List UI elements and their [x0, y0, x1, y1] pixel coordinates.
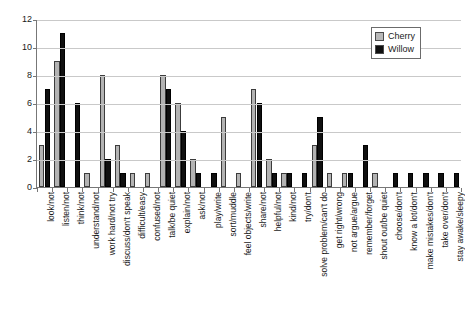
- bar-willow: [75, 103, 80, 187]
- x-tick-label: ask/not: [198, 192, 207, 219]
- bar-cherry: [130, 173, 135, 187]
- x-tick-label-text: think/not: [77, 192, 86, 224]
- gridline: [37, 132, 461, 133]
- x-tick-label-text: choose/don't: [395, 192, 404, 240]
- x-tick-label-text: shout out/be quiet: [380, 192, 389, 260]
- x-tick-label-text: ask/not: [198, 192, 207, 219]
- bar-cherry: [266, 159, 271, 187]
- x-tick-label-text: sort/muddle: [229, 192, 238, 236]
- x-tick-label: work hard/not try: [108, 192, 117, 255]
- x-tick-label: listen/not: [62, 192, 71, 226]
- bar-willow: [454, 173, 459, 187]
- x-tick-label-text: explain/not: [183, 192, 192, 233]
- x-tick-label-text: discuss/don't speak: [123, 192, 132, 266]
- x-tick-label-text: know a lot/don't: [410, 192, 419, 251]
- bar-group: [446, 19, 461, 187]
- bar-willow: [363, 145, 368, 187]
- bar-willow: [120, 173, 125, 187]
- bar-group: [310, 19, 325, 187]
- x-tick-label: make mistakes/don't: [426, 192, 435, 269]
- legend-label-cherry: Cherry: [388, 32, 415, 41]
- x-tick-label: shout out/be quiet: [380, 192, 389, 260]
- bar-willow: [287, 173, 292, 187]
- bar-willow: [257, 103, 262, 187]
- x-tick-label: remember/forget: [365, 192, 374, 255]
- bar-group: [128, 19, 143, 187]
- x-tick-label: not argue/argue: [350, 192, 359, 252]
- bar-group: [325, 19, 340, 187]
- bar-cherry: [312, 145, 317, 187]
- bar-group: [204, 19, 219, 187]
- gridline: [37, 20, 461, 21]
- x-tick-label-text: take over/don't: [441, 192, 450, 248]
- bar-group: [219, 19, 234, 187]
- bar-cherry: [372, 173, 377, 187]
- x-tick-label: helpful/not: [274, 192, 283, 231]
- x-tick-label-text: not argue/argue: [350, 192, 359, 252]
- y-tick-label: 6: [2, 99, 32, 108]
- y-tick-mark: [33, 160, 37, 161]
- x-tick-label: stay awake/sleepy: [456, 192, 465, 261]
- bar-cherry: [190, 159, 195, 187]
- x-tick-label-text: make mistakes/don't: [426, 192, 435, 269]
- y-tick-label: 8: [2, 71, 32, 80]
- x-tick-label-text: try/don't: [304, 192, 313, 222]
- x-tick-label: play/write: [214, 192, 223, 228]
- bar-cherry: [54, 61, 59, 187]
- x-tick-label-text: talk/be quiet: [168, 192, 177, 238]
- x-tick-label: solve problem/can't do: [320, 192, 329, 277]
- y-axis-labels: 024681012: [0, 20, 32, 188]
- y-tick-label: 12: [2, 15, 32, 24]
- legend-item-cherry: Cherry: [375, 30, 415, 43]
- bar-group: [279, 19, 294, 187]
- gridline: [37, 104, 461, 105]
- bar-group: [52, 19, 67, 187]
- bar-willow: [438, 173, 443, 187]
- x-tick-label-text: difficult/easy: [138, 192, 147, 239]
- bar-group: [264, 19, 279, 187]
- bar-group: [173, 19, 188, 187]
- y-tick-mark: [33, 132, 37, 133]
- bar-cherry: [84, 173, 89, 187]
- bar-group: [37, 19, 52, 187]
- x-tick-label-text: remember/forget: [365, 192, 374, 255]
- bar-group: [82, 19, 97, 187]
- x-tick-label: explain/not: [183, 192, 192, 233]
- bar-group: [188, 19, 203, 187]
- x-axis-labels: look/notlisten/notthink/notunderstand/no…: [36, 192, 460, 328]
- x-tick-label: difficult/easy: [138, 192, 147, 239]
- bar-cherry: [221, 117, 226, 187]
- y-tick-label: 10: [2, 43, 32, 52]
- bar-willow: [105, 159, 110, 187]
- x-tick-label-text: work hard/not try: [108, 192, 117, 255]
- gridline: [37, 160, 461, 161]
- x-tick-label: take over/don't: [441, 192, 450, 248]
- legend-item-willow: Willow: [375, 43, 415, 56]
- y-tick-mark: [33, 20, 37, 21]
- bar-cherry: [115, 145, 120, 187]
- bar-willow: [408, 173, 413, 187]
- bar-willow: [302, 173, 307, 187]
- x-tick-label-text: stay awake/sleepy: [456, 192, 465, 261]
- bar-cherry: [160, 75, 165, 187]
- bar-cherry: [236, 173, 241, 187]
- bar-willow: [181, 131, 186, 187]
- y-tick-label: 0: [2, 183, 32, 192]
- y-tick-mark: [33, 76, 37, 77]
- bar-group: [340, 19, 355, 187]
- x-tick-label-text: kind/not: [289, 192, 298, 222]
- x-tick-label-text: listen/not: [62, 192, 71, 226]
- x-tick-label-text: look/not: [47, 192, 56, 222]
- bar-group: [431, 19, 446, 187]
- bar-group: [113, 19, 128, 187]
- legend-swatch-willow: [375, 45, 384, 54]
- x-tick-label: talk/be quiet: [168, 192, 177, 238]
- bar-cherry: [145, 173, 150, 187]
- bar-willow: [60, 33, 65, 187]
- x-tick-label-text: confused/not: [153, 192, 162, 241]
- bar-willow: [393, 173, 398, 187]
- bar-group: [143, 19, 158, 187]
- y-tick-label: 2: [2, 155, 32, 164]
- x-tick-label: try/don't: [304, 192, 313, 222]
